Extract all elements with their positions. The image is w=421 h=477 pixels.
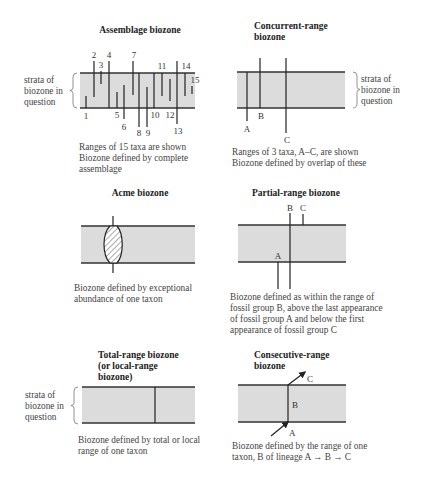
svg-text:question: question: [361, 96, 393, 106]
svg-text:biozone): biozone): [98, 372, 132, 383]
strata-band: [237, 72, 345, 108]
svg-text:biozone in: biozone in: [24, 86, 63, 96]
side-label: strata of biozone in question: [24, 73, 77, 108]
strata-band: [81, 226, 195, 263]
svg-text:range of one taxon: range of one taxon: [78, 446, 148, 456]
svg-text:5: 5: [115, 110, 120, 120]
svg-text:biozone: biozone: [254, 32, 285, 42]
svg-text:15: 15: [191, 75, 201, 85]
panel-consecutive-range: Consecutive-range biozone A B C Biozone …: [232, 350, 367, 462]
caption: Biozone defined by the range of one taxo…: [232, 441, 367, 462]
svg-text:B: B: [287, 203, 293, 213]
svg-text:6: 6: [122, 122, 127, 132]
svg-text:Ranges of 15 taxa are shown: Ranges of 15 taxa are shown: [79, 142, 186, 152]
panel-title: Assemblage biozone: [99, 25, 181, 35]
brace-icon: [70, 73, 77, 108]
svg-text:B: B: [258, 111, 264, 121]
svg-text:abundance of one taxon: abundance of one taxon: [74, 294, 163, 304]
caption: Biozone defined by exceptional abundance…: [74, 283, 192, 304]
svg-text:Biozone defined by complete: Biozone defined by complete: [79, 153, 188, 163]
svg-text:13: 13: [174, 126, 184, 136]
svg-text:C: C: [284, 135, 290, 145]
panel-title: Concurrent-range: [254, 21, 328, 31]
svg-text:14: 14: [182, 61, 192, 71]
panel-title: Consecutive-range: [254, 350, 329, 360]
strata-band: [80, 73, 195, 108]
svg-text:A: A: [275, 251, 282, 261]
svg-text:10: 10: [151, 110, 161, 120]
svg-text:C: C: [307, 374, 313, 384]
panel-title: Partial-range biozone: [252, 188, 340, 198]
svg-text:A: A: [244, 124, 251, 134]
svg-text:strata of: strata of: [24, 75, 55, 85]
svg-text:biozone in: biozone in: [361, 85, 400, 95]
svg-text:taxon, B of lineage A → B → C: taxon, B of lineage A → B → C: [232, 452, 351, 462]
svg-text:biozone in: biozone in: [25, 401, 64, 411]
caption: Ranges of 15 taxa are shown Biozone defi…: [79, 142, 188, 174]
caption: Biozone defined by total or local range …: [78, 435, 201, 456]
svg-text:Biozone defined by exceptional: Biozone defined by exceptional: [74, 283, 192, 293]
svg-text:biozone: biozone: [254, 361, 285, 371]
svg-text:Biozone defined by overlap of: Biozone defined by overlap of these: [232, 158, 367, 168]
svg-text:assemblage: assemblage: [79, 164, 122, 174]
svg-text:12: 12: [166, 110, 175, 120]
abundance-lens-icon: [104, 226, 122, 263]
svg-text:2: 2: [92, 50, 97, 60]
svg-text:A: A: [289, 428, 296, 438]
svg-text:11: 11: [158, 61, 167, 71]
svg-text:8: 8: [137, 128, 142, 138]
panel-acme: Acme biozone Biozone defined by exceptio…: [74, 188, 195, 304]
svg-text:1: 1: [84, 111, 89, 121]
svg-text:Biozone defined by the range o: Biozone defined by the range of one: [232, 441, 367, 451]
brace-icon: [353, 72, 360, 108]
svg-text:C: C: [300, 203, 306, 213]
arrow-b-to-c-icon: [288, 372, 305, 385]
svg-text:Biozone defined by total or lo: Biozone defined by total or local: [78, 435, 201, 445]
panel-total-range: Total-range biozone (or local-range bioz…: [25, 350, 201, 456]
svg-text:fossil group B, above the last: fossil group B, above the last appearanc…: [230, 303, 383, 313]
strata-band: [238, 225, 346, 262]
svg-text:of fossil group A and below th: of fossil group A and below the first: [230, 314, 364, 324]
side-label: strata of biozone in question: [353, 72, 400, 108]
svg-text:Biozone defined as within the: Biozone defined as within the range of: [230, 292, 375, 302]
svg-text:(or local-range: (or local-range: [98, 361, 158, 372]
svg-text:Ranges of 3 taxa, A–C, are sho: Ranges of 3 taxa, A–C, are shown: [232, 147, 359, 157]
caption: Biozone defined as within the range of f…: [230, 292, 383, 335]
svg-text:appearance of fossil group C: appearance of fossil group C: [230, 325, 337, 335]
svg-text:3: 3: [99, 60, 104, 70]
panel-assemblage: Assemblage biozone strata of biozone in …: [24, 25, 200, 174]
panel-title: Total-range biozone: [98, 350, 179, 360]
svg-text:strata of: strata of: [361, 74, 392, 84]
svg-text:9: 9: [146, 128, 151, 138]
svg-text:question: question: [25, 412, 57, 422]
brace-icon: [71, 387, 78, 424]
svg-text:4: 4: [107, 50, 112, 60]
panel-concurrent-range: Concurrent-range biozone A B C strata of…: [232, 21, 400, 168]
svg-text:question: question: [24, 97, 56, 107]
side-label: strata of biozone in question: [25, 387, 78, 424]
arrow-a-to-b-icon: [271, 422, 288, 436]
caption: Ranges of 3 taxa, A–C, are shown Biozone…: [232, 147, 367, 168]
svg-text:7: 7: [132, 50, 137, 60]
svg-text:strata of: strata of: [25, 390, 56, 400]
panel-title: Acme biozone: [112, 188, 169, 198]
svg-text:B: B: [292, 400, 298, 410]
strata-band: [82, 387, 195, 423]
panel-partial-range: Partial-range biozone A B C Biozone defi…: [230, 188, 383, 335]
biozone-types-diagram: Assemblage biozone strata of biozone in …: [0, 0, 421, 477]
